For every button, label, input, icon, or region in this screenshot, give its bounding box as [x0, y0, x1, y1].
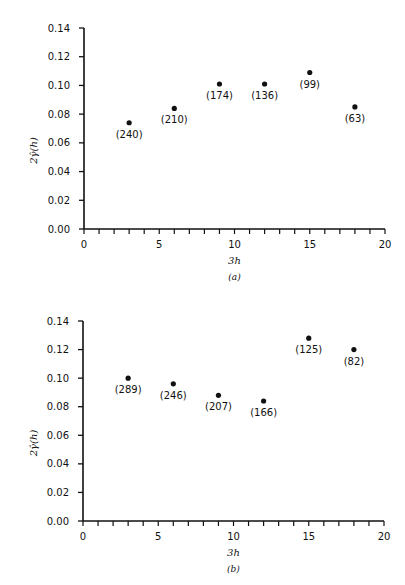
data-point [261, 398, 266, 403]
chart-panel-b: 0.000.020.040.060.080.100.120.1405101520… [0, 295, 405, 585]
data-point-label: (166) [250, 407, 277, 418]
data-point [216, 393, 221, 398]
y-tick-label: 0.06 [47, 430, 69, 441]
x-tick-label: 5 [155, 531, 161, 542]
x-tick-label: 15 [303, 239, 316, 250]
x-tick-label: 5 [156, 239, 162, 250]
x-axis-title: 3h [228, 255, 241, 266]
data-point-label: (125) [295, 344, 322, 355]
x-tick-label: 10 [227, 531, 240, 542]
y-tick-label: 0.06 [48, 137, 70, 148]
data-point [171, 381, 176, 386]
data-point-label: (174) [206, 90, 233, 101]
x-tick-label: 0 [81, 239, 87, 250]
panel-label: (b) [227, 564, 240, 574]
y-tick-label: 0.08 [47, 401, 69, 412]
y-tick-label: 0.08 [48, 109, 70, 120]
y-tick-label: 0.02 [47, 487, 69, 498]
data-point [127, 120, 132, 125]
data-point-label: (210) [161, 114, 188, 125]
y-tick-label: 0.00 [47, 516, 69, 527]
data-point-label: (99) [299, 79, 320, 90]
panel-label: (a) [228, 272, 241, 282]
y-tick-label: 0.14 [48, 23, 70, 34]
chart-panel-a: 0.000.020.040.060.080.100.120.1405101520… [0, 0, 405, 295]
data-point-label: (289) [115, 384, 142, 395]
data-point [307, 70, 312, 75]
data-point-label: (240) [116, 129, 143, 140]
data-point-label: (246) [160, 390, 187, 401]
x-tick-label: 10 [228, 239, 241, 250]
y-tick-label: 0.12 [47, 344, 69, 355]
x-tick-label: 20 [379, 239, 392, 250]
data-point [126, 376, 131, 381]
data-point-label: (82) [344, 356, 365, 367]
data-point [262, 81, 267, 86]
y-tick-label: 0.04 [47, 458, 69, 469]
x-axis-title: 3h [227, 547, 240, 558]
data-point [217, 81, 222, 86]
y-tick-label: 0.00 [48, 224, 70, 235]
x-tick-label: 20 [378, 531, 391, 542]
data-point [306, 336, 311, 341]
y-tick-label: 0.10 [48, 80, 70, 91]
y-tick-label: 0.04 [48, 166, 70, 177]
y-tick-label: 0.02 [48, 195, 70, 206]
y-axis-title: 2γ̂(h) [28, 430, 39, 458]
data-point [352, 104, 357, 109]
data-point [172, 106, 177, 111]
y-tick-label: 0.12 [48, 51, 70, 62]
data-point-label: (207) [205, 401, 232, 412]
x-tick-label: 0 [80, 531, 86, 542]
y-tick-label: 0.14 [47, 316, 69, 327]
x-tick-label: 15 [302, 531, 315, 542]
y-tick-label: 0.10 [47, 373, 69, 384]
data-point [351, 347, 356, 352]
data-point-label: (136) [251, 90, 278, 101]
data-point-label: (63) [345, 113, 366, 124]
y-axis-title: 2γ̂(h) [28, 137, 39, 165]
